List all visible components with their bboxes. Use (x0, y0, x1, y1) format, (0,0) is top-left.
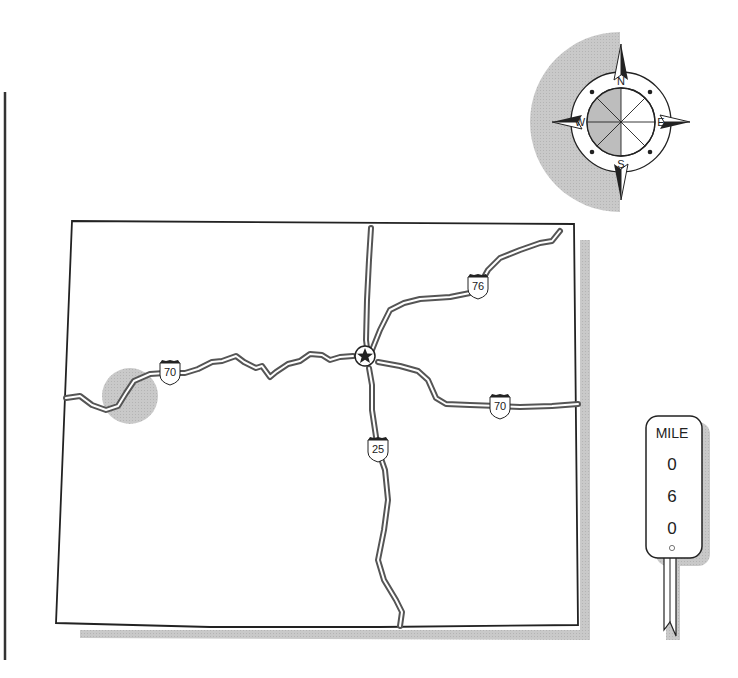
compass-label-west: W (575, 116, 586, 128)
shield-label: 70 (494, 400, 506, 412)
shield-i70-west: 70 (160, 360, 180, 385)
mile-marker-digit: 0 (667, 455, 676, 474)
shield-i76: 76 (468, 274, 488, 299)
compass-rose: N S E W (530, 32, 690, 212)
mile-marker-digit: 6 (667, 487, 676, 506)
compass-label-north: N (617, 75, 625, 87)
shield-label: 25 (372, 443, 384, 455)
shield-label: 70 (164, 366, 176, 378)
compass-label-south: S (617, 158, 624, 170)
mile-marker-digit: 0 (667, 519, 676, 538)
compass-label-east: E (657, 116, 664, 128)
capital-star-marker (355, 346, 375, 366)
state-outline (56, 221, 578, 627)
map-illustration: 70 76 25 70 (0, 0, 738, 678)
shield-label: 76 (472, 280, 484, 292)
mile-marker-sign: MILE 0 6 0 (646, 416, 710, 640)
shield-i70-east: 70 (490, 394, 510, 419)
mile-marker-title: MILE (656, 425, 689, 441)
shield-i25: 25 (368, 437, 388, 462)
